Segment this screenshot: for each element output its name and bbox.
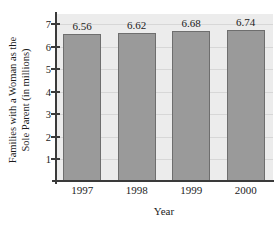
plot-area: 6.566.626.686.74 <box>55 14 273 182</box>
x-axis-line <box>52 180 274 182</box>
y-axis-tick-label: 3 <box>36 109 51 120</box>
bar-slot: 6.68 <box>172 14 210 182</box>
y-axis-tick-label: 6 <box>36 41 51 52</box>
y-axis-tick-label: 5 <box>36 64 51 75</box>
bar <box>118 33 156 182</box>
y-axis-tick-label: 4 <box>36 86 51 97</box>
x-axis-title: Year <box>55 205 273 217</box>
bar-series: 6.566.626.686.74 <box>55 14 273 182</box>
y-axis-tick-mark <box>51 158 60 160</box>
y-axis-tick-label: 1 <box>36 154 51 165</box>
bar-slot: 6.56 <box>63 14 101 182</box>
y-axis-tick-labels: 1234567 <box>36 22 51 176</box>
y-axis-title-line-1: Families with a Woman as the <box>6 37 19 163</box>
bar <box>227 30 265 182</box>
y-axis-tick-mark <box>51 68 60 70</box>
y-axis-tick-mark <box>51 46 60 48</box>
bar-value-label: 6.74 <box>227 16 265 28</box>
y-axis-title-line-2: Sole Parent (in millions) <box>19 37 32 163</box>
bar-value-label: 6.68 <box>172 17 210 29</box>
x-axis-tick-label: 2000 <box>235 184 257 196</box>
y-axis-tick-mark <box>51 23 60 25</box>
bar <box>63 34 101 182</box>
x-axis-tick-label: 1999 <box>180 184 202 196</box>
x-axis-tick-label: 1997 <box>71 184 93 196</box>
y-axis-tick-mark <box>51 136 60 138</box>
bar <box>172 31 210 182</box>
bar-slot: 6.74 <box>227 14 265 182</box>
y-axis-tick-mark <box>51 91 60 93</box>
x-axis-tick-label: 1998 <box>126 184 148 196</box>
y-axis-tick-mark <box>51 113 60 115</box>
bar-value-label: 6.56 <box>63 20 101 32</box>
bar-slot: 6.62 <box>118 14 156 182</box>
x-axis-tick-labels: 1997199819992000 <box>55 184 273 200</box>
y-axis-tick-label: 2 <box>36 131 51 142</box>
bar-chart-figure: Families with a Woman as the Sole Parent… <box>0 0 279 233</box>
y-axis-title: Families with a Woman as the Sole Parent… <box>0 0 38 200</box>
bar-value-label: 6.62 <box>118 19 156 31</box>
y-axis-tick-label: 7 <box>36 19 51 30</box>
